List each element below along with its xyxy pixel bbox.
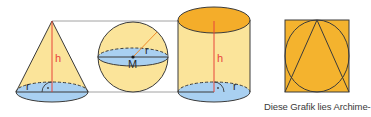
cylinder-figure [178,7,250,102]
cylinder-height-label: h [217,52,223,64]
sphere-figure [98,22,168,92]
caption-text: Diese Grafik lies Archime- [264,101,371,112]
cone-radius-label: r [26,80,30,92]
cylinder-radius-label: r [233,80,237,92]
sphere-radius-label: r [145,44,149,56]
cone-height-label: h [55,52,61,64]
sphere-center-label: M [128,58,137,70]
square-circle-triangle-figure [285,20,349,92]
